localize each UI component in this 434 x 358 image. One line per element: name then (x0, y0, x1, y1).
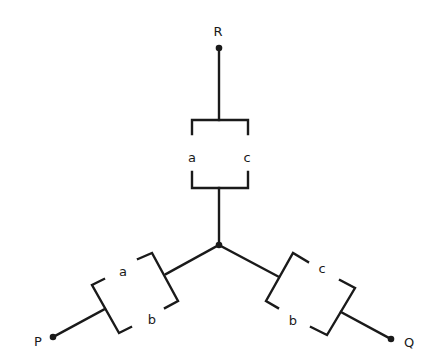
bracket-left-outer (92, 279, 131, 333)
wire-right-junction (219, 245, 279, 277)
terminal-p-label: P (34, 334, 42, 349)
branch-right: c b (219, 245, 391, 339)
bracket-top-upper (192, 120, 248, 134)
label-right-c: c (318, 261, 325, 276)
label-right-b: b (289, 313, 297, 328)
label-left-b: b (148, 312, 156, 327)
bracket-right-outer (311, 280, 355, 335)
terminal-q-label: Q (404, 335, 414, 350)
label-top-a: a (188, 150, 196, 165)
wire-p (53, 309, 105, 337)
wire-left-junction (166, 245, 219, 274)
terminal-p-dot (50, 334, 57, 341)
bracket-top-lower (192, 172, 248, 188)
bracket-left-inner (138, 253, 178, 308)
center-junction-dot (216, 242, 223, 249)
terminal-r-label: R (213, 24, 222, 39)
label-top-c: c (243, 150, 250, 165)
star-network-diagram: a c a b c b R P Q (0, 0, 434, 358)
terminal-r-dot (216, 45, 223, 52)
branch-left: a b (53, 245, 219, 337)
label-left-a: a (119, 264, 127, 279)
terminal-q-dot (388, 336, 395, 343)
branch-top: a c (188, 48, 251, 245)
wire-q (341, 312, 391, 339)
bracket-right-inner (266, 253, 308, 308)
